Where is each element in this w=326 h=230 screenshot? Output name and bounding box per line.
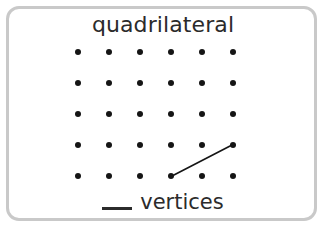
geoboard-dot[interactable] (199, 111, 205, 117)
geoboard-dot[interactable] (199, 80, 205, 86)
geoboard-dot[interactable] (230, 111, 236, 117)
geoboard-dot[interactable] (168, 80, 174, 86)
geoboard-dot[interactable] (230, 80, 236, 86)
geoboard-dot[interactable] (137, 111, 143, 117)
answer-blank-input[interactable] (102, 194, 132, 210)
geoboard-dot[interactable] (106, 80, 112, 86)
geoboard-dot[interactable] (75, 142, 81, 148)
geoboard-dot[interactable] (137, 142, 143, 148)
answer-prompt-label: vertices (140, 190, 223, 214)
geoboard-dot[interactable] (199, 173, 205, 179)
geoboard-dot[interactable] (75, 173, 81, 179)
geoboard-dot[interactable] (168, 142, 174, 148)
geoboard-dot[interactable] (168, 173, 174, 179)
geoboard-dot[interactable] (230, 142, 236, 148)
geoboard-dot[interactable] (75, 80, 81, 86)
geoboard-dot[interactable] (199, 142, 205, 148)
answer-prompt: vertices (0, 189, 326, 215)
geoboard-dot[interactable] (230, 173, 236, 179)
geoboard-dot[interactable] (168, 111, 174, 117)
geoboard-dot[interactable] (106, 173, 112, 179)
geoboard-dot[interactable] (106, 142, 112, 148)
geoboard-dot[interactable] (75, 111, 81, 117)
geoboard-dot[interactable] (168, 49, 174, 55)
geoboard-dot[interactable] (137, 173, 143, 179)
worksheet-card: quadrilateral vertices (0, 0, 326, 230)
drawn-segment[interactable] (172, 145, 232, 176)
geoboard-dot[interactable] (137, 49, 143, 55)
geoboard-dot[interactable] (137, 80, 143, 86)
geoboard-dot[interactable] (106, 49, 112, 55)
geoboard-dot[interactable] (199, 49, 205, 55)
geoboard-dot[interactable] (106, 111, 112, 117)
geoboard-dot[interactable] (75, 49, 81, 55)
geoboard-dot[interactable] (230, 49, 236, 55)
